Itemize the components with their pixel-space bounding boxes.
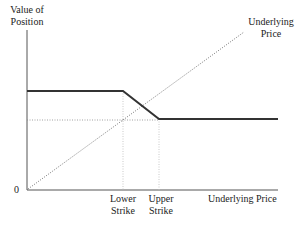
y-axis-label-line1: Value of	[2, 4, 52, 16]
x-axis-label: Underlying Price	[208, 193, 277, 205]
underlying-annotation-line2: Price	[240, 28, 302, 40]
position-payoff-line	[27, 91, 278, 119]
y-axis-label: Value of Position	[2, 4, 52, 28]
underlying-annotation-line1: Underlying	[240, 16, 302, 28]
upper-strike-line1: Upper	[141, 193, 181, 205]
lower-strike-label: Lower Strike	[103, 193, 143, 217]
lower-strike-line2: Strike	[103, 205, 143, 217]
lower-strike-line1: Lower	[103, 193, 143, 205]
upper-strike-line2: Strike	[141, 205, 181, 217]
underlying-price-line	[28, 32, 244, 189]
origin-label: 0	[14, 184, 19, 196]
y-axis-label-line2: Position	[2, 16, 52, 28]
upper-strike-label: Upper Strike	[141, 193, 181, 217]
underlying-price-annotation: Underlying Price	[240, 16, 302, 40]
